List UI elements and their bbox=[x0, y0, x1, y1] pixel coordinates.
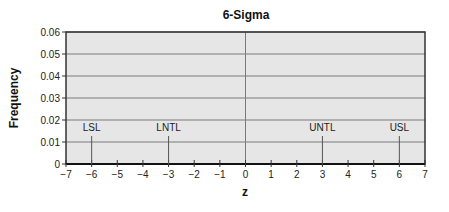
y-tick-label: 0.06 bbox=[41, 27, 61, 38]
y-tick-label: 0 bbox=[54, 159, 60, 170]
x-tick-label: −7 bbox=[60, 169, 72, 180]
spec-limit-label: LSL bbox=[83, 122, 101, 133]
y-tick-label: 0.04 bbox=[41, 71, 61, 82]
x-tick-label: 1 bbox=[268, 169, 274, 180]
x-tick-label: −4 bbox=[137, 169, 149, 180]
spec-limit-label: LNTL bbox=[156, 122, 181, 133]
x-tick-label: 6 bbox=[397, 169, 403, 180]
x-tick-label: 4 bbox=[345, 169, 351, 180]
six-sigma-chart: 6-Sigma 00.010.020.030.040.050.06 −7−6−5… bbox=[0, 0, 449, 212]
chart-title: 6-Sigma bbox=[223, 8, 270, 22]
x-tick-label: 7 bbox=[422, 169, 428, 180]
y-axis-label: Frequency bbox=[7, 67, 21, 128]
x-tick-label: −6 bbox=[86, 169, 98, 180]
x-tick-label: −3 bbox=[163, 169, 175, 180]
x-tick-label: 2 bbox=[294, 169, 300, 180]
spec-limit-label: UNTL bbox=[309, 122, 336, 133]
x-tick-label: −1 bbox=[214, 169, 226, 180]
x-tick-label: 3 bbox=[320, 169, 326, 180]
x-tick-label: −5 bbox=[112, 169, 124, 180]
y-tick-label: 0.05 bbox=[41, 49, 61, 60]
y-tick-label: 0.02 bbox=[41, 115, 61, 126]
plot-area bbox=[66, 0, 425, 164]
spec-limit-label: USL bbox=[390, 122, 410, 133]
y-tick-label: 0.01 bbox=[41, 137, 61, 148]
x-tick-label: 0 bbox=[243, 169, 249, 180]
x-axis-label: z bbox=[242, 185, 248, 199]
y-tick-label: 0.03 bbox=[41, 93, 61, 104]
y-axis-ticks: 00.010.020.030.040.050.06 bbox=[41, 27, 66, 170]
x-tick-label: −2 bbox=[189, 169, 201, 180]
x-tick-label: 5 bbox=[371, 169, 377, 180]
